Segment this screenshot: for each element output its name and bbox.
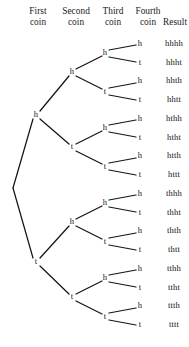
- tree-edge: [109, 170, 136, 175]
- tree-edge: [109, 45, 136, 50]
- tree-edge: [109, 320, 136, 325]
- tree-edge: [13, 188, 33, 258]
- coin-toss-tree-figure: FirstcoinSecondcoinThirdcoinFourthcoinRe…: [0, 0, 189, 347]
- node-label-n-h: h: [34, 109, 39, 119]
- tree-edge: [13, 119, 33, 188]
- tree-nodes: hththththththt: [34, 47, 108, 320]
- leaf-label-leaf-hthh: h: [138, 113, 143, 123]
- tree-edge: [76, 301, 102, 314]
- result-hhtt: hhtt: [167, 94, 181, 104]
- leaf-label-leaf-hhhh: h: [138, 38, 143, 48]
- result-hhth: hhth: [166, 75, 182, 85]
- tree-edge: [109, 282, 136, 287]
- result-hhhh: hhhh: [165, 38, 183, 48]
- tree-edge: [109, 308, 136, 313]
- node-label-n-thh: h: [103, 197, 108, 207]
- node-label-n-tht: t: [104, 236, 107, 246]
- leaf-label-leaf-htth: h: [138, 150, 143, 160]
- result-ttht: ttht: [168, 282, 181, 292]
- tree-edge: [109, 195, 136, 200]
- leaf-label-leaf-hhth: h: [138, 75, 143, 85]
- result-thth: thth: [167, 225, 182, 235]
- result-httt: httt: [168, 169, 181, 179]
- node-label-n-hht: t: [104, 86, 107, 96]
- result-htht: htht: [167, 132, 181, 142]
- result-tttt: tttt: [169, 319, 180, 329]
- node-label-n-hhh: h: [103, 47, 108, 57]
- tree-edges: [13, 45, 136, 325]
- tree-diagram: hththththththt hthththththththt hhhhhhht…: [0, 0, 189, 347]
- tree-edge: [109, 233, 136, 238]
- result-thhh: thhh: [166, 188, 182, 198]
- tree-edge: [40, 76, 69, 111]
- result-hthh: hthh: [166, 113, 182, 123]
- tree-edge: [76, 56, 102, 69]
- leaf-label-leaf-htht: t: [139, 132, 142, 142]
- node-label-n-ttt: t: [104, 311, 107, 321]
- tree-leaf-labels: hthththththththt: [138, 38, 143, 329]
- node-label-n-htt: t: [104, 161, 107, 171]
- node-label-n-hh: h: [70, 66, 75, 76]
- leaf-label-leaf-tthh: h: [138, 263, 143, 273]
- node-label-n-hth: h: [103, 122, 108, 132]
- tree-edge: [76, 281, 102, 294]
- tree-edge: [40, 266, 69, 294]
- leaf-label-leaf-thth: h: [138, 225, 143, 235]
- leaf-label-leaf-thhh: h: [138, 188, 143, 198]
- node-label-n-ht: t: [71, 141, 74, 151]
- node-label-n-tt: t: [71, 291, 74, 301]
- tree-edge: [40, 119, 69, 144]
- result-labels: hhhhhhhthhthhhtththhhththtthhtttthhhthht…: [165, 38, 183, 329]
- node-label-n-t: t: [35, 256, 38, 266]
- result-tthh: tthh: [167, 263, 182, 273]
- tree-edge: [76, 206, 102, 219]
- result-thtt: thtt: [168, 244, 181, 254]
- node-label-n-tth: h: [103, 272, 108, 282]
- result-hhht: hhht: [166, 57, 182, 67]
- result-htth: htth: [167, 150, 182, 160]
- tree-edge: [76, 226, 102, 239]
- node-label-n-th: h: [70, 216, 75, 226]
- tree-edge: [76, 76, 102, 89]
- tree-edge: [109, 95, 136, 100]
- leaf-label-leaf-tttt: t: [139, 319, 142, 329]
- result-thht: thht: [167, 207, 181, 217]
- result-ttth: ttth: [168, 300, 181, 310]
- tree-edge: [109, 83, 136, 88]
- tree-edge: [109, 57, 136, 62]
- leaf-label-leaf-thtt: t: [139, 244, 142, 254]
- leaf-label-leaf-httt: t: [139, 169, 142, 179]
- tree-edge: [76, 131, 102, 144]
- leaf-label-leaf-ttth: h: [138, 300, 143, 310]
- tree-edge: [109, 158, 136, 163]
- tree-edge: [76, 151, 102, 164]
- leaf-label-leaf-thht: t: [139, 207, 142, 217]
- tree-edge: [109, 207, 136, 212]
- tree-edge: [109, 270, 136, 275]
- tree-edge: [40, 226, 69, 258]
- tree-edge: [109, 120, 136, 125]
- tree-edge: [109, 132, 136, 137]
- leaf-label-leaf-hhtt: t: [139, 94, 142, 104]
- tree-edge: [109, 245, 136, 250]
- leaf-label-leaf-hhht: t: [139, 57, 142, 67]
- leaf-label-leaf-ttht: t: [139, 282, 142, 292]
